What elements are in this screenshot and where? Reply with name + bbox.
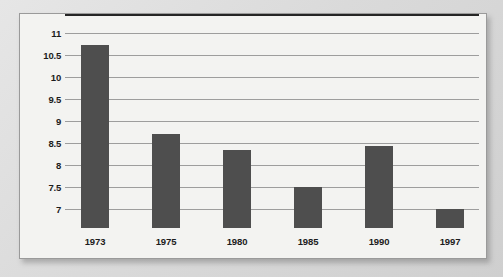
bar-1997[interactable] bbox=[436, 209, 464, 228]
bar-1980[interactable] bbox=[223, 150, 251, 228]
gridline-9-5 bbox=[65, 99, 479, 100]
gridline-7 bbox=[65, 209, 479, 210]
gridline-8 bbox=[65, 165, 479, 166]
xtick-label-1990: 1990 bbox=[349, 237, 409, 247]
ytick-label-8: 8 bbox=[21, 161, 61, 171]
xtick-label-1980: 1980 bbox=[207, 237, 267, 247]
ytick-label-11: 11 bbox=[21, 29, 61, 39]
ytick-label-9-5: 9.5 bbox=[21, 95, 61, 105]
gridline-7-5 bbox=[65, 187, 479, 188]
gridline-9 bbox=[65, 121, 479, 122]
ytick-label-7: 7 bbox=[21, 205, 61, 215]
ytick-label-10: 10 bbox=[21, 73, 61, 83]
xtick-label-1973: 1973 bbox=[65, 237, 125, 247]
scanned-page-background: 11 10.5 10 9.5 9 8.5 8 7.5 7 bbox=[0, 0, 503, 277]
ytick-label-7-5: 7.5 bbox=[21, 183, 61, 193]
gridline-10-5 bbox=[65, 55, 479, 56]
xtick-label-1975: 1975 bbox=[136, 237, 196, 247]
bar-1975[interactable] bbox=[152, 134, 180, 228]
bar-1973[interactable] bbox=[81, 45, 109, 228]
gridline-10 bbox=[65, 77, 479, 78]
x-axis-baseline bbox=[65, 14, 479, 16]
gridline-8-5 bbox=[65, 143, 479, 144]
chart-panel: 11 10.5 10 9.5 9 8.5 8 7.5 7 bbox=[19, 13, 487, 259]
bar-1990[interactable] bbox=[365, 146, 393, 228]
ytick-label-9: 9 bbox=[21, 117, 61, 127]
xtick-label-1985: 1985 bbox=[278, 237, 338, 247]
xtick-label-1997: 1997 bbox=[420, 237, 480, 247]
ytick-label-10-5: 10.5 bbox=[21, 51, 61, 61]
gridline-11 bbox=[65, 33, 479, 34]
ytick-label-8-5: 8.5 bbox=[21, 139, 61, 149]
bar-1985[interactable] bbox=[294, 187, 322, 228]
bar-chart-plot-area: 11 10.5 10 9.5 9 8.5 8 7.5 7 bbox=[20, 14, 486, 258]
